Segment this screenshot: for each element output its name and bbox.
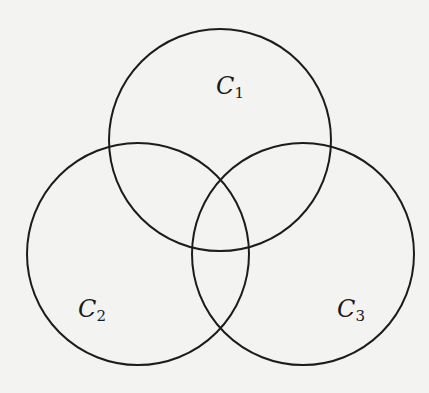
venn-diagram-svg (0, 0, 429, 393)
label-c3-name: C (337, 295, 355, 323)
circle-c3 (192, 143, 414, 365)
label-c2-subscript: 2 (96, 307, 106, 325)
label-c3: C3 (337, 297, 365, 324)
label-c1-subscript: 1 (234, 84, 244, 102)
label-c2: C2 (78, 297, 106, 324)
label-c1: C1 (216, 74, 244, 101)
circle-c2 (27, 143, 249, 365)
label-c3-subscript: 3 (355, 307, 365, 325)
venn-diagram: C1 C2 C3 (0, 0, 429, 393)
circle-c1 (109, 29, 331, 251)
label-c2-name: C (78, 295, 96, 323)
label-c1-name: C (216, 72, 234, 100)
